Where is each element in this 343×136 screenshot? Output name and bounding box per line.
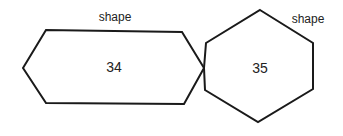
- shape-35-group[interactable]: shape 35: [204, 10, 325, 122]
- shape-35-value: 35: [252, 60, 268, 76]
- diagram-canvas: shape 34 shape 35: [0, 0, 343, 136]
- shape-34-value: 34: [106, 59, 122, 75]
- shape-34-label: shape: [99, 10, 132, 24]
- shape-35-label: shape: [292, 12, 325, 26]
- shape-34-group[interactable]: shape 34: [23, 10, 204, 104]
